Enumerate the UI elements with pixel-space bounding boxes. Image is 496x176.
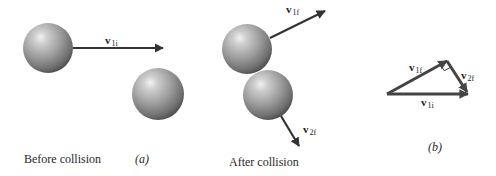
panel-vector-triangle: [387, 61, 468, 94]
vector-symbol: v: [303, 123, 309, 135]
caption-panel-b-tag: (b): [428, 141, 442, 153]
triangle-label-v1f: v1f: [409, 62, 422, 73]
vector-subscript: 1i: [112, 39, 118, 48]
vector-symbol: v: [286, 3, 292, 15]
label-v2f: v2f: [303, 124, 316, 135]
vector-symbol: v: [105, 34, 111, 46]
ball-1-sphere: [222, 24, 272, 74]
ball-2-sphere: [243, 70, 293, 120]
panel-before-collision: [23, 23, 184, 120]
vector-subscript: 1f: [293, 8, 300, 17]
vector-symbol: v: [421, 96, 427, 108]
diagram-canvas: [0, 0, 496, 176]
vector-subscript: 2f: [468, 74, 475, 83]
ball-2-sphere: [132, 68, 184, 120]
vector-subscript: 2f: [310, 128, 317, 137]
collision-diagram: v1i v1f v2f v1f v2f v1i Before collision…: [0, 0, 496, 176]
label-v1i: v1i: [105, 35, 118, 46]
ball-1-sphere: [23, 23, 73, 73]
triangle-label-v2f: v2f: [461, 70, 474, 81]
vector-symbol: v: [461, 69, 467, 81]
caption-before-collision: Before collision: [24, 153, 101, 165]
caption-panel-a-tag: (a): [135, 153, 149, 165]
vector-subscript: 1i: [428, 101, 434, 110]
triangle-label-v1i: v1i: [421, 97, 434, 108]
vector-subscript: 1f: [416, 66, 423, 75]
vector-symbol: v: [409, 61, 415, 73]
caption-after-collision: After collision: [229, 156, 299, 168]
velocity-v2f-arrow: [281, 116, 299, 146]
label-v1f: v1f: [286, 4, 299, 15]
